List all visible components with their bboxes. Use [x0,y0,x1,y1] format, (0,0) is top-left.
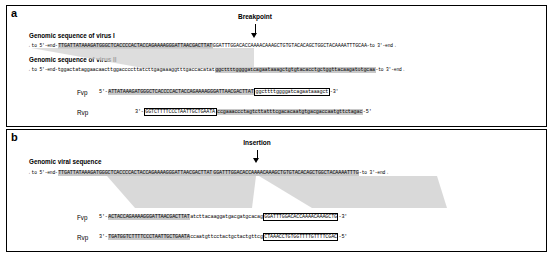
rvp-sequence-a: 3'-GGTCTTTTCCCTAATTGCTGAATAccgaaaccctagt… [135,109,372,115]
fvp-sequence-a: 5'-ATTATAAAGATGGGCTCACCCCACTACCAGAAAAGGG… [99,89,338,95]
genomic-viral-title: Genomic viral sequence [29,158,101,165]
genomic-left-flank: ←to 5'-end- [29,170,58,175]
fvp-suffix-b: -3' [338,214,347,220]
rvp-seq-box2-b: CTAAACCTGTGGTTTTGTTTTCGAC [263,233,339,241]
insertion-label: Insertion [197,139,317,146]
rvp-label-a: Rvp [77,109,88,116]
rvp-seq-hl-a: ccgaaaccctagtcttatttcgacacaatgtgacgaccaa… [217,109,363,115]
fvp-seq-box-a: ggcttttggggatcagaataaagct [254,88,330,96]
rvp-seq-box-b: TGATGGTCTTTTCCCTAATTGCTGAATA [108,234,190,240]
fvp-label-b: Fvp [77,214,88,221]
fvp-label-a: Fvp [77,89,88,96]
genomic-right-flank: -to 3'-end→ [359,170,388,175]
panel-b-label: b [11,131,18,143]
fvp-seq-hl-a: ATTATAAAGATGGGCTCACCCCACTACCAGAAAAGGGATT… [108,89,254,95]
rvp-seq-box-a: GGTCTTTTCCCTAATTGCTGAATA [144,108,217,116]
fvp-seq-mid-b: atcttacaaggatgacgatgcacag [190,214,263,220]
rvp-prefix-a: 3'- [135,109,144,115]
fvp-prefix-b: 5'- [99,214,108,220]
rvp-suffix-a: -5' [363,109,372,115]
rvp-prefix-b: 3'- [99,234,108,240]
panel-b: b Insertion Genomic viral sequence ←to 5… [6,129,547,252]
fvp-seq-hl-b: ACTACCAGAAAAGGGATTAACGACTTAT [108,214,190,220]
breakpoint-label: Breakpoint [195,13,315,20]
panel-a-label: a [11,7,17,19]
fvp-sequence-b: 5'-ACTACCAGAAAAGGGATTAACGACTTATatcttacaa… [99,214,347,220]
rvp-seq-mid-b: ccaatgttcctactgctactgttcg [190,234,263,240]
rvp-label-b: Rvp [77,234,88,241]
panel-a: a Breakpoint Genomic sequence of virus I… [6,5,547,127]
panel-b-wedges [7,176,553,212]
rvp-suffix-b: -5' [338,234,347,240]
figure-container: a Breakpoint Genomic sequence of virus I… [0,0,553,257]
virus-1-title: Genomic sequence of virus I [29,32,115,39]
fvp-prefix-a: 5'- [99,89,108,95]
fvp-seq-box-b: GGATTTGGACACCAAAACAAAGCTG [263,213,339,221]
breakpoint-arrow-icon [251,33,257,38]
rvp-sequence-b: 3'-TGATGGTCTTTTCCCTAATTGCTGAATAccaatgttc… [99,234,347,240]
insertion-arrow-icon [253,158,259,163]
panel-a-wedge [7,48,553,70]
fvp-suffix-a: -3' [330,89,339,95]
